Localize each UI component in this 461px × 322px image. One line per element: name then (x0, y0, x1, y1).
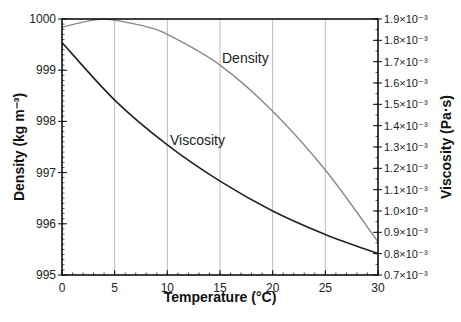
y-tick-label-right: 1.2×10⁻³ (384, 162, 428, 174)
x-tick-label: 0 (59, 281, 66, 295)
y-tick-label-right: 0.8×10⁻³ (384, 248, 428, 260)
y-tick-label-right: 1.1×10⁻³ (384, 184, 428, 196)
y-tick-label-right: 1.0×10⁻³ (384, 205, 428, 217)
y-tick-label-right: 0.9×10⁻³ (384, 226, 428, 238)
viscosity-curve-label: Viscosity (170, 132, 225, 148)
y-tick-label-right: 1.9×10⁻³ (384, 13, 428, 25)
y-tick-label-right: 1.3×10⁻³ (384, 141, 428, 153)
y-tick-label-left: 996 (36, 217, 56, 231)
y-tick-label-left: 1000 (29, 12, 56, 26)
y-axis-label-right: Viscosity (Pa·s) (438, 95, 454, 199)
y-axis-label-left: Density (kg m⁻³) (11, 93, 27, 201)
y-tick-label-right: 0.7×10⁻³ (384, 269, 428, 281)
y-tick-label-right: 1.6×10⁻³ (384, 77, 428, 89)
y-tick-label-left: 999 (36, 63, 56, 77)
y-tick-label-right: 1.8×10⁻³ (384, 34, 428, 46)
y-tick-label-right: 1.5×10⁻³ (384, 98, 428, 110)
y-tick-label-left: 995 (36, 268, 56, 282)
y-tick-label-right: 1.4×10⁻³ (384, 120, 428, 132)
x-tick-label: 25 (319, 281, 333, 295)
y-tick-label-left: 997 (36, 166, 56, 180)
y-tick-label-left: 998 (36, 114, 56, 128)
density-viscosity-chart: 05101520253099599699799899910000.7×10⁻³0… (0, 0, 461, 322)
density-curve-label: Density (222, 50, 269, 66)
x-axis-label: Temperature (°C) (164, 289, 277, 305)
y-tick-label-right: 1.7×10⁻³ (384, 56, 428, 68)
x-tick-label: 5 (111, 281, 118, 295)
x-tick-label: 30 (371, 281, 385, 295)
